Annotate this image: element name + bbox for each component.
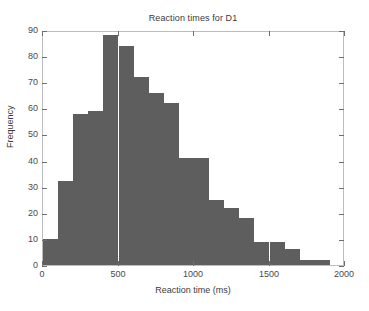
y-axis-tick	[42, 109, 47, 110]
y-axis-tick-mirror	[339, 266, 344, 267]
y-axis-tick	[42, 266, 47, 267]
histogram-bar	[58, 181, 73, 265]
histogram-bar	[270, 242, 285, 266]
y-axis-tick	[42, 214, 47, 215]
chart-title: Reaction times for D1	[42, 13, 344, 23]
y-axis-tick	[42, 83, 47, 84]
y-axis-tick	[42, 135, 47, 136]
y-axis-tick-label: 30	[12, 182, 38, 192]
histogram-figure: Reaction times for D1 Frequency 01020304…	[0, 0, 369, 311]
x-axis-tick	[193, 261, 194, 266]
y-axis-tick-label: 20	[12, 208, 38, 218]
histogram-bar	[179, 158, 194, 265]
bar-series	[43, 32, 343, 265]
x-axis-tick-label: 2000	[324, 269, 364, 279]
y-axis-tick-mirror	[339, 188, 344, 189]
y-axis-tick-label: 70	[12, 77, 38, 87]
y-axis-tick	[42, 57, 47, 58]
y-axis-tick	[42, 188, 47, 189]
x-axis-tick-mirror	[344, 31, 345, 36]
histogram-bar	[239, 218, 254, 265]
y-axis-tick-mirror	[339, 83, 344, 84]
histogram-bar	[224, 208, 239, 265]
y-axis-tick	[42, 240, 47, 241]
x-axis-tick-mirror	[269, 31, 270, 36]
y-axis-tick-label: 90	[12, 25, 38, 35]
y-axis-tick-mirror	[339, 214, 344, 215]
x-axis-label: Reaction time (ms)	[42, 285, 344, 295]
x-axis-tick	[42, 261, 43, 266]
x-axis-tick-mirror	[42, 31, 43, 36]
x-axis-tick	[118, 261, 119, 266]
y-axis-tick-mirror	[339, 57, 344, 58]
y-axis-tick-mirror	[339, 162, 344, 163]
histogram-bar	[209, 200, 224, 265]
x-axis-tick-mirror	[118, 31, 119, 36]
x-axis-tick-label: 1500	[249, 269, 289, 279]
plot-area	[42, 31, 344, 266]
x-axis-tick-label: 500	[98, 269, 138, 279]
histogram-bar	[134, 77, 149, 265]
histogram-bar	[285, 249, 300, 265]
y-axis-tick-label: 60	[12, 103, 38, 113]
y-axis-tick-label: 80	[12, 51, 38, 61]
y-axis-tick-mirror	[339, 109, 344, 110]
x-axis-tick-label: 1000	[173, 269, 213, 279]
y-axis-tick-label: 10	[12, 234, 38, 244]
histogram-bar	[149, 93, 164, 265]
y-axis-tick-label: 40	[12, 156, 38, 166]
histogram-bar	[88, 111, 103, 265]
x-axis-tick	[269, 261, 270, 266]
histogram-bar	[103, 35, 118, 265]
histogram-bar	[254, 242, 269, 266]
histogram-bar	[300, 260, 315, 265]
histogram-bar	[194, 158, 209, 265]
y-axis-tick-label: 50	[12, 129, 38, 139]
histogram-bar	[164, 103, 179, 265]
histogram-bar	[73, 114, 88, 265]
y-axis-tick-mirror	[339, 240, 344, 241]
y-axis-tick-mirror	[339, 135, 344, 136]
x-axis-tick-label: 0	[22, 269, 62, 279]
x-axis-tick-mirror	[193, 31, 194, 36]
y-axis-tick	[42, 162, 47, 163]
histogram-bar	[315, 260, 330, 265]
histogram-bar	[43, 239, 58, 265]
histogram-bar	[119, 46, 134, 265]
x-axis-tick	[344, 261, 345, 266]
